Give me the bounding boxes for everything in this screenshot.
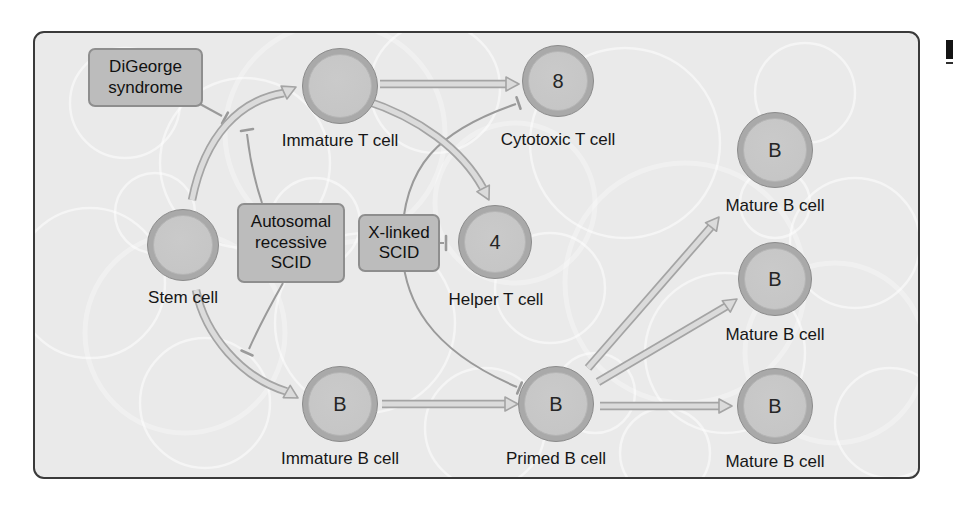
box-x-linked-scid: X-linked SCID xyxy=(358,214,440,272)
cell-body xyxy=(153,215,213,275)
box-line: X-linked xyxy=(368,223,429,243)
cell-immature-t xyxy=(302,48,378,124)
box-line: syndrome xyxy=(108,78,183,98)
cell-label-mature-b-top: Mature B cell xyxy=(725,196,824,216)
cell-letter: B xyxy=(333,393,346,416)
cell-label-primed-b: Primed B cell xyxy=(506,449,606,469)
cell-body: B xyxy=(743,374,807,438)
cell-letter: B xyxy=(768,139,781,162)
cell-body: 4 xyxy=(464,211,526,273)
box-line: DiGeorge xyxy=(109,57,182,77)
cropped-figure-rule-fragment xyxy=(946,62,953,64)
cropped-figure-label-fragment xyxy=(946,40,953,59)
cell-stem xyxy=(147,209,219,281)
cell-letter: B xyxy=(768,268,781,291)
cell-primed-b: B xyxy=(518,366,594,442)
cell-label-stem: Stem cell xyxy=(148,288,218,308)
cell-label-immature-t: Immature T cell xyxy=(282,131,399,151)
cell-mature-b-top: B xyxy=(737,112,813,188)
box-line: recessive xyxy=(255,233,327,253)
cell-letter: B xyxy=(549,393,562,416)
cell-cytotoxic-t: 8 xyxy=(522,45,594,117)
cell-letter: B xyxy=(768,395,781,418)
cell-body: B xyxy=(308,372,372,436)
cell-mature-b-bottom: B xyxy=(737,368,813,444)
cell-helper-t: 4 xyxy=(458,205,532,279)
cell-mature-b-middle: B xyxy=(738,242,812,316)
cell-label-helper-t: Helper T cell xyxy=(449,290,544,310)
cell-label-mature-b-middle: Mature B cell xyxy=(725,325,824,345)
box-line: Autosomal xyxy=(251,212,331,232)
figure-canvas: DiGeorge syndrome Autosomal recessive SC… xyxy=(0,0,953,513)
cell-label-cytotoxic-t: Cytotoxic T cell xyxy=(501,130,616,150)
cell-letter: 8 xyxy=(552,70,563,93)
box-autosomal-recessive-scid: Autosomal recessive SCID xyxy=(237,203,345,283)
cell-letter: 4 xyxy=(489,231,500,254)
cell-body: B xyxy=(743,118,807,182)
cell-immature-b: B xyxy=(302,366,378,442)
box-line: SCID xyxy=(379,243,420,263)
cell-body: B xyxy=(524,372,588,436)
box-digeorge-syndrome: DiGeorge syndrome xyxy=(88,48,203,107)
cell-label-mature-b-bottom: Mature B cell xyxy=(725,452,824,472)
cell-body xyxy=(308,54,372,118)
cell-label-immature-b: Immature B cell xyxy=(281,449,399,469)
cell-body: B xyxy=(744,248,806,310)
cell-body: 8 xyxy=(528,51,588,111)
box-line: SCID xyxy=(271,253,312,273)
